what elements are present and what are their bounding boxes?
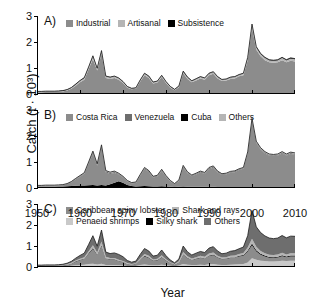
x-tick-label: 1950 — [25, 207, 49, 219]
x-tick-mark — [209, 184, 210, 188]
panel-c-axes: 0123 1950196019701980199020002010 — [37, 204, 295, 267]
x-tick-mark — [294, 184, 295, 188]
y-tick-label: 3 — [26, 11, 32, 22]
y-tick-mark — [34, 188, 38, 189]
y-tick-label: 2 — [26, 37, 32, 48]
y-tick-label: 3 — [26, 105, 32, 116]
x-tick-mark — [294, 90, 295, 94]
x-tick-label: 1970 — [111, 207, 135, 219]
x-tick-mark — [123, 90, 124, 94]
x-tick-mark — [252, 90, 253, 94]
panel-c-plot: 0123 1950196019701980199020002010 — [37, 204, 295, 267]
y-tick-label: 2 — [26, 220, 32, 231]
x-tick-mark — [252, 184, 253, 188]
panel-b-axes: 0123 — [37, 110, 295, 188]
x-tick-mark — [209, 90, 210, 94]
x-axis-label: Year — [0, 286, 311, 300]
x-tick-mark — [80, 184, 81, 188]
x-tick-mark — [80, 90, 81, 94]
y-tick-label: 0 — [26, 89, 32, 100]
panel-a-axes: 0123 — [37, 16, 295, 94]
panel-a-x-ticks — [37, 16, 295, 94]
x-tick-label: 1980 — [154, 207, 178, 219]
x-tick-mark — [123, 184, 124, 188]
y-tick-mark — [34, 94, 38, 95]
x-tick-mark — [166, 184, 167, 188]
panel-b-plot: 0123 — [37, 110, 295, 188]
y-tick-label: 0 — [26, 262, 32, 273]
x-tick-label: 1960 — [68, 207, 92, 219]
figure-root: Catch (t · 10³) Year A) B) C) Industrial… — [0, 0, 311, 303]
y-tick-label: 0 — [26, 183, 32, 194]
y-tick-label: 1 — [26, 157, 32, 168]
y-tick-label: 1 — [26, 63, 32, 74]
x-tick-mark — [37, 90, 38, 94]
x-tick-label: 1990 — [197, 207, 221, 219]
y-tick-label: 2 — [26, 131, 32, 142]
x-tick-mark — [37, 184, 38, 188]
panel-a-plot: 0123 — [37, 16, 295, 94]
y-tick-label: 1 — [26, 241, 32, 252]
x-tick-label: 2010 — [283, 207, 307, 219]
y-tick-mark — [34, 267, 38, 268]
x-tick-label: 2000 — [240, 207, 264, 219]
x-tick-mark — [166, 90, 167, 94]
panel-b-x-ticks — [37, 110, 295, 188]
panel-c-x-tick-labels: 1950196019701980199020002010 — [37, 204, 295, 267]
